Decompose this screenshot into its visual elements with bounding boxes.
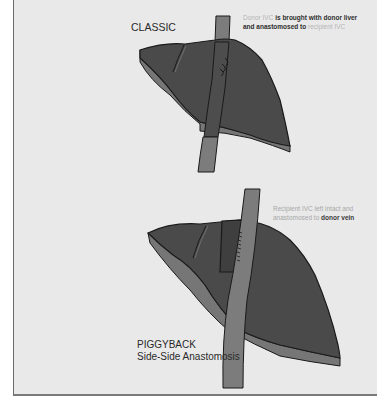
piggyback-note-donor-vein: donor vein [321,214,354,221]
piggyback-label-subtitle: Side-Side Anastomosis [137,351,240,363]
classic-label: CLASSIC [131,21,176,33]
piggyback-label-title: PIGGYBACK [137,339,240,351]
classic-note-recipient-ivc: recipient IVC [308,23,345,30]
classic-note: Donor IVC is brought with donor liver an… [243,14,368,31]
piggyback-note: Recipient IVC left intact and anastomose… [273,205,373,222]
classic-diagram [140,16,290,172]
classic-ivc-upper [215,16,230,42]
piggyback-label: PIGGYBACK Side-Side Anastomosis [137,339,240,363]
classic-ivc-lower [198,137,218,172]
classic-note-donor-ivc: Donor IVC [243,14,273,21]
